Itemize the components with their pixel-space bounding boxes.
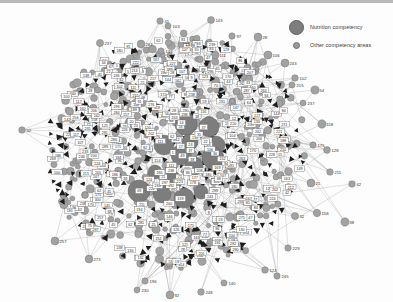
svg-text:243: 243 xyxy=(172,116,178,120)
node-label: 124 xyxy=(144,177,154,182)
svg-text:145: 145 xyxy=(104,204,110,208)
node-label: 220 xyxy=(228,121,238,126)
node-label: 62 xyxy=(168,134,176,139)
graph-node-other xyxy=(301,153,308,160)
node-label: 175 xyxy=(186,223,196,228)
node-label: 169 xyxy=(212,165,222,170)
node-label: 286 xyxy=(109,137,119,142)
node-label: 89 xyxy=(199,66,207,71)
peripheral-node-label: 158 xyxy=(322,211,330,216)
svg-text:293: 293 xyxy=(113,105,119,109)
node-label: 86 xyxy=(184,170,192,175)
svg-text:112: 112 xyxy=(168,164,174,168)
graph-node-other xyxy=(86,185,94,193)
node-label: 85 xyxy=(244,200,252,205)
svg-text:25: 25 xyxy=(152,223,156,227)
node-label: 186 xyxy=(110,172,120,177)
node-label: 96 xyxy=(213,226,221,231)
graph-node-other xyxy=(258,213,263,218)
svg-text:40: 40 xyxy=(98,73,102,77)
node-label: 282 xyxy=(228,241,238,246)
node-label: 20 xyxy=(128,119,136,124)
node-label: 154 xyxy=(152,158,162,163)
svg-text:107: 107 xyxy=(179,70,185,74)
node-label: 147 xyxy=(231,105,241,110)
svg-text:116: 116 xyxy=(200,110,206,114)
graph-node-other xyxy=(237,93,243,99)
svg-text:25: 25 xyxy=(140,81,144,85)
node-label: 212 xyxy=(286,184,296,189)
graph-node-other xyxy=(108,216,114,222)
svg-text:238: 238 xyxy=(80,202,86,206)
node-label: 116 xyxy=(198,109,208,114)
graph-node-other xyxy=(160,119,167,126)
graph-node-other xyxy=(67,215,72,220)
svg-text:147: 147 xyxy=(233,106,239,110)
svg-text:33: 33 xyxy=(246,81,250,85)
node-label: 106 xyxy=(205,146,215,151)
svg-text:281: 281 xyxy=(138,221,144,225)
graph-node-other xyxy=(96,39,103,46)
svg-text:177: 177 xyxy=(192,176,198,180)
graph-node-other xyxy=(51,162,57,168)
node-label: 227 xyxy=(167,61,177,66)
node-label: 170 xyxy=(223,74,233,79)
graph-node-other xyxy=(220,41,225,46)
node-label: 86 xyxy=(236,58,244,63)
node-label: 68 xyxy=(106,208,114,213)
node-label: 207 xyxy=(245,70,255,75)
graph-node-other xyxy=(95,87,101,93)
peripheral-node-label: 133 xyxy=(166,49,174,54)
svg-text:139: 139 xyxy=(177,197,183,201)
node-label: 127 xyxy=(252,113,262,118)
graph-node-other xyxy=(82,192,88,198)
svg-text:37: 37 xyxy=(202,126,206,130)
svg-text:276: 276 xyxy=(148,103,154,107)
graph-node-other xyxy=(141,140,146,145)
svg-text:287: 287 xyxy=(244,89,250,93)
node-label: 45 xyxy=(109,222,117,227)
svg-text:1: 1 xyxy=(172,151,174,155)
node-label: 111 xyxy=(155,138,165,143)
node-label: 9 xyxy=(189,75,195,80)
peripheral-node-label: 21 xyxy=(316,181,321,186)
svg-text:170: 170 xyxy=(88,203,94,207)
node-label: 217 xyxy=(148,76,158,81)
svg-text:36: 36 xyxy=(213,152,217,156)
node-label: 163 xyxy=(282,176,292,181)
graph-node-other xyxy=(85,255,93,263)
svg-text:15: 15 xyxy=(278,153,282,157)
edge-arrowhead xyxy=(56,187,61,192)
svg-text:297: 297 xyxy=(162,181,168,185)
svg-text:162: 162 xyxy=(94,114,100,118)
legend: Nutrition competency Other competency ar… xyxy=(285,18,393,54)
node-label: 15 xyxy=(276,152,284,157)
svg-text:22: 22 xyxy=(106,70,110,74)
edge-arrowhead xyxy=(146,244,153,251)
svg-text:184: 184 xyxy=(115,156,121,160)
svg-text:269: 269 xyxy=(50,157,56,161)
svg-text:111: 111 xyxy=(130,86,136,90)
node-label: 194 xyxy=(134,207,144,212)
node-label: 39 xyxy=(121,176,129,181)
svg-text:200: 200 xyxy=(166,202,172,206)
graph-node-other xyxy=(180,30,187,37)
legend-marker-other-icon xyxy=(285,42,307,49)
graph-node-other xyxy=(216,111,224,119)
svg-text:252: 252 xyxy=(155,237,161,241)
node-label: 129 xyxy=(221,47,231,52)
svg-text:44: 44 xyxy=(226,80,230,84)
node-label: 206 xyxy=(89,108,99,113)
svg-text:142: 142 xyxy=(64,118,70,122)
svg-text:12: 12 xyxy=(232,117,236,121)
svg-text:84: 84 xyxy=(209,47,213,51)
svg-text:123: 123 xyxy=(202,75,208,79)
node-label: 14 xyxy=(178,120,186,125)
node-label: 276 xyxy=(146,102,156,107)
graph-node-other xyxy=(255,67,259,71)
svg-text:181: 181 xyxy=(67,209,73,213)
svg-text:180: 180 xyxy=(231,185,237,189)
svg-text:214: 214 xyxy=(131,69,137,73)
svg-text:127: 127 xyxy=(254,114,260,118)
svg-text:202: 202 xyxy=(148,132,154,136)
